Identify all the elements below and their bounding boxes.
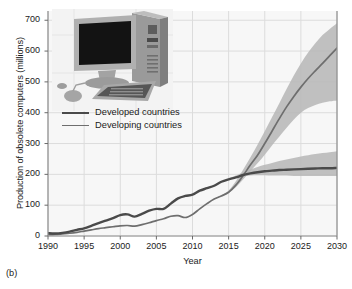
y-tick-label: 600 bbox=[10, 45, 40, 55]
legend-label-developing: Developing countries bbox=[95, 120, 182, 131]
legend-label-developed: Developed countries bbox=[95, 107, 180, 118]
y-tick-label: 200 bbox=[10, 168, 40, 178]
x-tick-label: 1995 bbox=[67, 241, 101, 251]
y-tick-label: 0 bbox=[10, 230, 40, 240]
x-tick-label: 2000 bbox=[103, 241, 137, 251]
y-tick-label: 400 bbox=[10, 107, 40, 117]
x-tick-label: 2010 bbox=[176, 241, 210, 251]
y-tick-label: 100 bbox=[10, 199, 40, 209]
legend-swatch-developing-icon bbox=[62, 125, 89, 126]
y-tick-label: 500 bbox=[10, 76, 40, 86]
y-tick-label: 700 bbox=[10, 14, 40, 24]
y-tick-label: 300 bbox=[10, 138, 40, 148]
legend-item-developed: Developed countries bbox=[62, 106, 182, 119]
x-tick-label: 2020 bbox=[248, 241, 282, 251]
legend-item-developing: Developing countries bbox=[62, 119, 182, 132]
x-tick-label: 2025 bbox=[284, 241, 318, 251]
legend-swatch-developed-icon bbox=[62, 112, 89, 114]
x-axis-title: Year bbox=[48, 256, 337, 266]
x-tick-label: 2005 bbox=[139, 241, 173, 251]
x-tick-label: 1990 bbox=[31, 241, 65, 251]
x-tick-label: 2030 bbox=[320, 241, 352, 251]
figure-caption: (b) bbox=[6, 268, 17, 278]
x-tick-label: 2015 bbox=[212, 241, 246, 251]
chart-legend: Developed countries Developing countries bbox=[62, 106, 182, 132]
desktop-computer-photo bbox=[52, 9, 173, 111]
